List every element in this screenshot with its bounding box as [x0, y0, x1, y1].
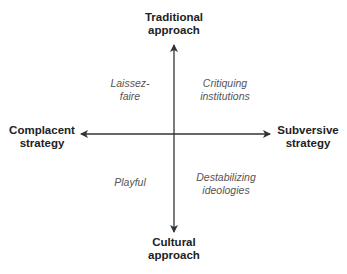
right-label-line1: Subversive [270, 124, 346, 137]
quadrant-top-right-line2: institutions [190, 90, 260, 103]
quadrant-top-right-line1: Critiquing [190, 77, 260, 90]
quadrant-bottom-left: Playful [100, 176, 160, 189]
bottom-label-line1: Cultural [124, 236, 224, 249]
right-axis-label: Subversive strategy [270, 124, 346, 150]
quadrant-bottom-right-line2: ideologies [188, 184, 264, 197]
right-label-line2: strategy [270, 137, 346, 150]
quadrant-bottom-left-line1: Playful [100, 176, 160, 189]
top-label-line2: approach [124, 24, 224, 37]
bottom-axis-label: Cultural approach [124, 236, 224, 262]
quadrant-top-left: Laissez- faire [100, 77, 160, 103]
quadrant-bottom-right: Destabilizing ideologies [188, 171, 264, 197]
left-axis-label: Complacent strategy [4, 124, 80, 150]
quadrant-top-left-line2: faire [100, 90, 160, 103]
quadrant-top-left-line1: Laissez- [100, 77, 160, 90]
bottom-label-line2: approach [124, 249, 224, 262]
quadrant-top-right: Critiquing institutions [190, 77, 260, 103]
top-label-line1: Traditional [124, 11, 224, 24]
quadrant-bottom-right-line1: Destabilizing [188, 171, 264, 184]
top-axis-label: Traditional approach [124, 11, 224, 37]
left-label-line2: strategy [4, 137, 80, 150]
left-label-line1: Complacent [4, 124, 80, 137]
